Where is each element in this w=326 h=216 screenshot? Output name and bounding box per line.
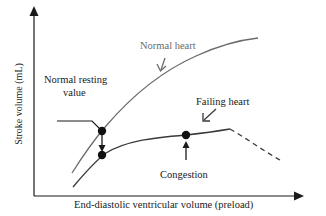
y-axis-arrowhead-icon xyxy=(30,6,39,16)
failing-resting-point xyxy=(98,151,106,159)
failing-heart-label: Failing heart xyxy=(196,96,249,107)
failing-heart-pointer-shaft xyxy=(204,109,216,120)
y-axis-label: Stroke volume (mL) xyxy=(13,63,24,145)
normal-resting-label-line2: value xyxy=(63,87,86,98)
normal-resting-leader-line xyxy=(57,121,102,131)
x-axis-arrowhead-icon xyxy=(294,192,304,201)
frank-starling-diagram: Normal heart Failing heart Normal restin… xyxy=(0,0,326,216)
failing-heart-descending-limb xyxy=(230,129,280,160)
normal-resting-label-line1: Normal resting xyxy=(44,74,107,85)
congestion-point xyxy=(182,131,190,139)
x-axis-label: End-diastolic ventricular volume (preloa… xyxy=(74,199,253,210)
congestion-arrowhead-icon xyxy=(183,141,190,148)
diagram-canvas xyxy=(0,0,326,216)
normal-resting-point xyxy=(98,127,106,135)
congestion-label: Congestion xyxy=(160,169,208,180)
normal-heart-label: Normal heart xyxy=(140,40,196,51)
